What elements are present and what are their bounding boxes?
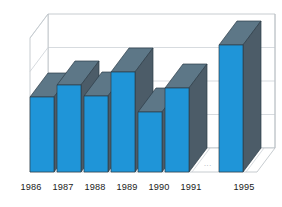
bar-1991[interactable] <box>165 64 207 172</box>
x-tick-label-1989: 1989 <box>117 182 138 192</box>
bar-1989-front <box>111 72 135 172</box>
x-tick-label-1988: 1988 <box>85 182 106 192</box>
bar-1991-front <box>165 88 189 172</box>
x-axis-labels: 1986 1987 1988 1989 1990 1991 1995 <box>21 182 255 192</box>
x-tick-label-1987: 1987 <box>53 182 74 192</box>
bar-1995-front <box>219 45 243 172</box>
bar-chart-3d: ... 1986 1987 1988 1989 1990 1991 1995 <box>0 0 282 207</box>
bar-1987-front <box>57 85 81 172</box>
x-tick-label-1995: 1995 <box>234 182 255 192</box>
bar-1986-front <box>30 97 54 172</box>
x-tick-label-1990: 1990 <box>149 182 170 192</box>
series-break-ellipsis: ... <box>204 160 212 167</box>
bar-1995-side <box>243 21 261 172</box>
x-tick-label-1986: 1986 <box>21 182 42 192</box>
bar-1990-front <box>138 112 162 172</box>
x-tick-label-1991: 1991 <box>181 182 202 192</box>
bar-1988-front <box>84 96 108 172</box>
bar-1995[interactable] <box>219 21 261 172</box>
chart-canvas: ... 1986 1987 1988 1989 1990 1991 1995 <box>0 0 282 207</box>
